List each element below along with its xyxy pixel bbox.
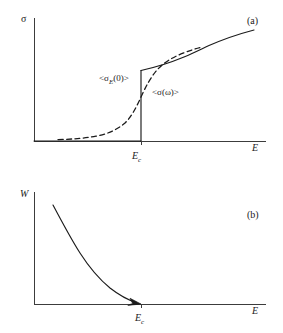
ec-tick-sub-a: c (138, 156, 141, 164)
y-axis-label-a: σ (21, 14, 26, 24)
panel-b: W E (b) Ec (0, 170, 283, 333)
width-decay-curve (53, 205, 136, 302)
ec-tick-label-a: Ec (132, 151, 141, 164)
panel-a-marker: (a) (247, 16, 258, 26)
ac-conductivity-curve (58, 47, 201, 139)
y-axis-label-b: W (20, 189, 28, 199)
panel-b-plot (0, 170, 283, 333)
dc-label-suffix: (0)> (113, 73, 129, 83)
dc-label-base: <σ (99, 73, 109, 83)
dc-conductivity-label: <σE(0)> (99, 74, 129, 86)
ac-conductivity-label: <σ(ω)> (152, 88, 179, 97)
ec-tick-sub-b: c (141, 318, 144, 326)
width-curve-arrowhead (128, 298, 141, 305)
panel-a-plot (0, 0, 283, 170)
panel-b-marker: (b) (247, 210, 259, 220)
panel-a: σ E (a) Ec <σE(0)> <σ(ω)> (0, 0, 283, 170)
dc-conductivity-curve (141, 30, 254, 71)
ec-tick-label-b: Ec (135, 313, 144, 326)
x-axis-label-b: E (252, 306, 258, 316)
x-axis-label-a: E (252, 143, 258, 153)
figure-root: σ E (a) Ec <σE(0)> <σ(ω)> W E (b) Ec (0, 0, 283, 333)
